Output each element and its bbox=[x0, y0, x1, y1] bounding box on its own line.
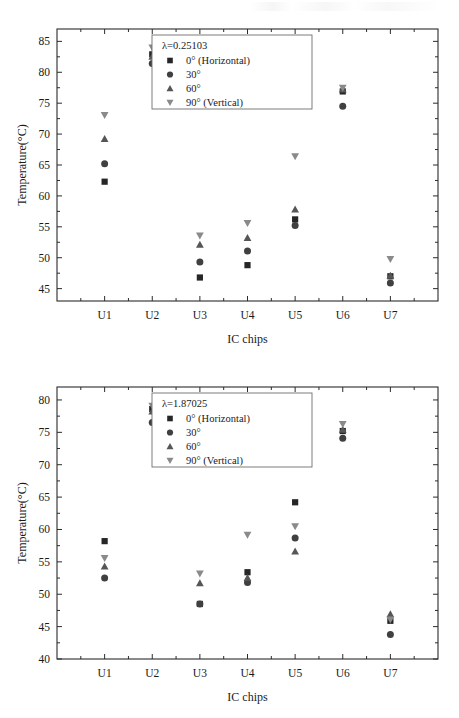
point-deg60-u1 bbox=[101, 562, 109, 569]
x-tick-label-u5: U5 bbox=[288, 309, 302, 321]
y-tick-label: 75 bbox=[39, 97, 51, 109]
x-tick-label-u1: U1 bbox=[98, 309, 112, 321]
point-deg90-u5 bbox=[291, 153, 299, 160]
point-deg60-u3 bbox=[196, 579, 204, 586]
legend-label-deg60: 60° bbox=[186, 441, 201, 452]
legend-marker-deg30 bbox=[167, 71, 173, 77]
point-deg60-u3 bbox=[196, 241, 204, 248]
x-tick-label-u1: U1 bbox=[98, 667, 112, 679]
point-deg90-u7 bbox=[386, 256, 394, 263]
y-tick-label: 45 bbox=[39, 283, 51, 295]
x-tick-label-u7: U7 bbox=[383, 309, 397, 321]
point-deg0-u1 bbox=[102, 179, 108, 185]
legend-label-deg30: 30° bbox=[186, 427, 201, 438]
point-deg30-u1 bbox=[101, 160, 108, 167]
legend: λ=1.870250° (Horizontal)30°60°90° (Verti… bbox=[152, 393, 312, 467]
legend-label-deg0: 0° (Horizontal) bbox=[186, 55, 250, 67]
point-deg0-u5 bbox=[292, 216, 298, 222]
legend-label-deg30: 30° bbox=[186, 69, 201, 80]
y-axis-title: Temperature(°C) bbox=[15, 482, 29, 563]
point-deg90-u5 bbox=[291, 523, 299, 530]
point-deg90-u3 bbox=[196, 232, 204, 239]
point-deg90-u1 bbox=[101, 112, 109, 119]
point-deg30-u6 bbox=[339, 103, 346, 110]
point-deg60-u1 bbox=[101, 135, 109, 142]
point-deg30-u1 bbox=[101, 575, 108, 582]
scatter-chart-lambda-1-87025: 404550556065707580U1U2U3U4U5U6U7IC chips… bbox=[0, 358, 459, 718]
point-deg0-u4 bbox=[244, 262, 250, 268]
point-deg30-u3 bbox=[196, 600, 203, 607]
legend-marker-deg30 bbox=[167, 429, 173, 435]
point-deg60-u4 bbox=[244, 234, 252, 241]
y-tick-label: 65 bbox=[39, 491, 51, 503]
legend-label-deg90: 90° (Vertical) bbox=[186, 97, 243, 109]
y-tick-label: 50 bbox=[39, 252, 51, 264]
plot-area-chart-top: 455055606570758085U1U2U3U4U5U6U7IC chips… bbox=[0, 0, 459, 358]
y-tick-label: 70 bbox=[39, 128, 51, 140]
point-deg30-u5 bbox=[292, 222, 299, 229]
point-deg90-u6 bbox=[339, 421, 347, 428]
y-axis-title: Temperature(°C) bbox=[15, 124, 29, 205]
x-tick-label-u6: U6 bbox=[336, 309, 350, 321]
point-deg0-u1 bbox=[102, 538, 108, 544]
x-axis-title: IC chips bbox=[227, 690, 268, 704]
point-deg60-u5 bbox=[291, 547, 299, 554]
y-tick-label: 50 bbox=[39, 588, 51, 600]
point-deg0-u3 bbox=[197, 274, 203, 280]
point-deg30-u4 bbox=[244, 247, 251, 254]
point-deg30-u3 bbox=[196, 259, 203, 266]
point-deg90-u1 bbox=[101, 555, 109, 562]
figure-page: 455055606570758085U1U2U3U4U5U6U7IC chips… bbox=[0, 0, 459, 718]
x-tick-label-u2: U2 bbox=[145, 667, 159, 679]
legend-title: λ=0.25103 bbox=[162, 40, 207, 51]
y-tick-label: 80 bbox=[39, 394, 51, 406]
y-tick-label: 55 bbox=[39, 221, 51, 233]
y-tick-label: 70 bbox=[39, 459, 51, 471]
plot-area-chart-bottom: 404550556065707580U1U2U3U4U5U6U7IC chips… bbox=[0, 358, 459, 718]
point-deg30-u7 bbox=[387, 631, 394, 638]
y-tick-label: 80 bbox=[39, 66, 51, 78]
legend-label-deg0: 0° (Horizontal) bbox=[186, 413, 250, 425]
y-tick-label: 75 bbox=[39, 426, 51, 438]
y-tick-label: 65 bbox=[39, 159, 51, 171]
x-tick-label-u4: U4 bbox=[240, 309, 254, 321]
point-deg30-u5 bbox=[292, 534, 299, 541]
scatter-chart-lambda-0-25103: 455055606570758085U1U2U3U4U5U6U7IC chips… bbox=[0, 0, 459, 358]
point-deg90-u4 bbox=[244, 220, 252, 227]
y-tick-label: 85 bbox=[39, 35, 51, 47]
point-deg60-u7 bbox=[386, 610, 394, 617]
x-tick-label-u6: U6 bbox=[336, 667, 350, 679]
legend-title: λ=1.87025 bbox=[162, 398, 207, 409]
point-deg30-u6 bbox=[339, 435, 346, 442]
x-tick-label-u7: U7 bbox=[383, 667, 397, 679]
y-tick-label: 60 bbox=[39, 523, 51, 535]
y-tick-label: 40 bbox=[39, 653, 51, 665]
x-tick-label-u3: U3 bbox=[193, 667, 207, 679]
point-deg60-u5 bbox=[291, 206, 299, 213]
point-deg0-u5 bbox=[292, 499, 298, 505]
x-tick-label-u4: U4 bbox=[240, 667, 254, 679]
x-tick-label-u5: U5 bbox=[288, 667, 302, 679]
y-tick-label: 45 bbox=[39, 621, 51, 633]
y-tick-label: 60 bbox=[39, 190, 51, 202]
legend-label-deg90: 90° (Vertical) bbox=[186, 455, 243, 467]
x-tick-label-u3: U3 bbox=[193, 309, 207, 321]
legend-label-deg60: 60° bbox=[186, 83, 201, 94]
legend: λ=0.251030° (Horizontal)30°60°90° (Verti… bbox=[152, 35, 312, 109]
point-deg90-u3 bbox=[196, 571, 204, 578]
legend-marker-deg0 bbox=[167, 58, 173, 64]
y-tick-label: 55 bbox=[39, 556, 51, 568]
x-tick-label-u2: U2 bbox=[145, 309, 159, 321]
point-deg30-u7 bbox=[387, 280, 394, 287]
point-deg90-u4 bbox=[244, 532, 252, 539]
x-axis-title: IC chips bbox=[227, 332, 268, 346]
legend-marker-deg0 bbox=[167, 416, 173, 422]
